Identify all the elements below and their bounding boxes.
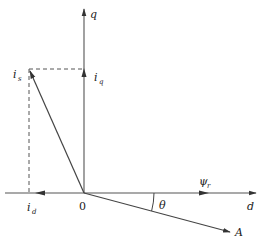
svg-text:r: r <box>207 182 211 190</box>
svg-text:q: q <box>99 78 104 86</box>
psi-r-label: ψ r <box>199 175 211 190</box>
a-vector <box>84 193 230 232</box>
is-vector <box>30 71 84 193</box>
q-axis-label: q <box>90 8 97 21</box>
theta-label: θ <box>159 199 166 212</box>
d-axis-label: d <box>247 200 254 213</box>
iq-arrow-icon <box>82 68 87 77</box>
svg-text:i: i <box>94 71 98 84</box>
id-label: i d <box>27 201 37 216</box>
vector-diagram: q d 0 i s i q i d ψ r A θ <box>0 0 264 245</box>
svg-text:d: d <box>32 208 37 216</box>
theta-arc <box>152 193 154 211</box>
origin-label: 0 <box>79 200 86 213</box>
a-vector-label: A <box>234 226 243 239</box>
iq-label: i q <box>94 71 104 86</box>
id-arrow-icon <box>35 191 45 196</box>
svg-text:i: i <box>27 201 31 214</box>
svg-text:i: i <box>13 68 17 81</box>
psi-r-arrow-icon <box>199 191 209 196</box>
is-label: i s <box>13 68 22 83</box>
svg-text:s: s <box>18 75 22 83</box>
